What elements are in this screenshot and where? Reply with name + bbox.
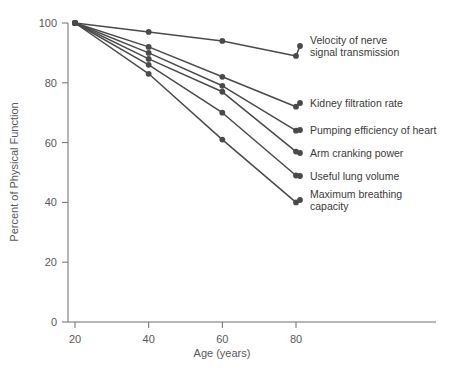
chart-figure: 020406080100 20406080 Velocity of nerves… (0, 0, 466, 377)
x-tick-label: 60 (216, 333, 228, 345)
label-leader-marker (297, 173, 303, 179)
x-tick-group: 20406080 (69, 322, 302, 345)
series-label: Arm cranking power (310, 147, 404, 159)
series-label: Pumping efficiency of heart (310, 124, 437, 136)
data-point (146, 56, 152, 62)
x-tick-label: 20 (69, 333, 81, 345)
y-tick-label: 0 (51, 316, 57, 328)
y-tick-group: 020406080100 (39, 17, 68, 328)
series-line (75, 23, 296, 107)
x-axis-title: Age (years) (194, 347, 251, 359)
series-label-group: Velocity of nervesignal transmissionKidn… (296, 34, 437, 212)
x-tick-label: 40 (143, 333, 155, 345)
series-label: Useful lung volume (310, 170, 399, 182)
label-leader-marker (297, 197, 303, 203)
data-point (72, 20, 78, 26)
data-point (146, 29, 152, 35)
data-point (219, 74, 225, 80)
series-label: Velocity of nerve (310, 34, 387, 46)
data-point (146, 50, 152, 56)
x-tick-label: 80 (290, 333, 302, 345)
data-point (146, 44, 152, 50)
data-point (219, 83, 225, 89)
series-label: Kidney filtration rate (310, 97, 403, 109)
y-tick-label: 20 (45, 256, 57, 268)
label-leader-marker (297, 150, 303, 156)
y-tick-label: 80 (45, 77, 57, 89)
data-point (219, 38, 225, 44)
data-point (146, 71, 152, 77)
line-chart: 020406080100 20406080 Velocity of nerves… (0, 0, 466, 377)
label-leader-marker (297, 100, 303, 106)
series-label: Maximum breathing (310, 188, 402, 200)
series-label: capacity (310, 200, 349, 212)
y-tick-label: 40 (45, 196, 57, 208)
data-point (146, 62, 152, 68)
y-tick-label: 100 (39, 17, 57, 29)
data-point (219, 137, 225, 143)
y-tick-label: 60 (45, 137, 57, 149)
series-group (72, 20, 299, 205)
series-label: signal transmission (310, 46, 399, 58)
y-axis-title: Percent of Physical Function (8, 102, 20, 241)
data-point (219, 89, 225, 95)
label-leader-marker (297, 43, 303, 49)
label-leader-marker (297, 127, 303, 133)
data-point (219, 110, 225, 116)
